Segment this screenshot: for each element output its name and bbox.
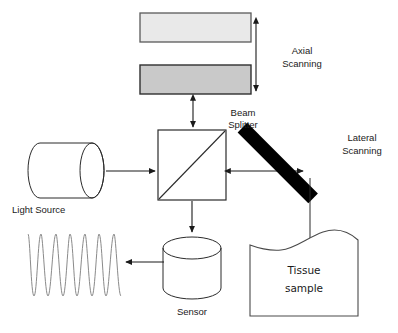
beam-splitter-label-line2: Splitter (228, 119, 258, 130)
axial-scanning-label-line1: Axial (292, 45, 313, 56)
reference-mirror-upper (140, 13, 251, 42)
axial-scanning-label-line2: Scanning (282, 58, 322, 69)
reference-mirror-lower (140, 65, 251, 94)
lateral-scanning-label-line2: Scanning (342, 145, 382, 156)
interference-waveform (28, 234, 121, 296)
beam-splitter-label-line1: Beam (231, 107, 256, 118)
lateral-scanning-mirror (238, 123, 318, 203)
light-source-label: Light Source (12, 204, 65, 215)
oct-diagram: Axial Scanning Beam Splitter Lateral Sca… (0, 0, 398, 333)
sensor-label: Sensor (177, 306, 207, 317)
sensor-cylinder (163, 237, 221, 299)
tissue-sample-label-line2: sample (285, 282, 323, 294)
tissue-sample-label-line1: Tissue (286, 264, 320, 276)
lateral-scanning-label-line1: Lateral (347, 132, 376, 143)
oct-schematic-canvas: Axial Scanning Beam Splitter Lateral Sca… (0, 0, 398, 333)
light-source-cylinder (28, 143, 104, 198)
